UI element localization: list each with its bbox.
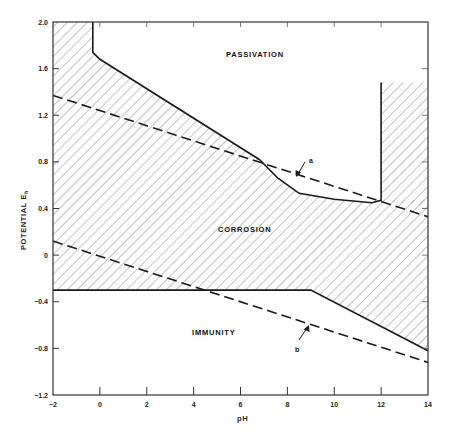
- y-tick-label: 2.0: [38, 19, 48, 26]
- arrowhead-b-icon: [304, 325, 310, 332]
- annotation-a: a: [296, 157, 314, 177]
- x-tick-label: 4: [192, 401, 196, 408]
- y-tick-label: −0.4: [34, 298, 48, 305]
- x-tick-label: 2: [145, 401, 149, 408]
- y-tick-label: −1.2: [34, 392, 48, 399]
- y-tick-label: 1.2: [38, 112, 48, 119]
- x-tick-label: 12: [377, 401, 385, 408]
- y-tick-label: 0.4: [38, 205, 48, 212]
- x-tick-label: −2: [49, 401, 57, 408]
- corrosion-region-right: [381, 83, 428, 207]
- y-axis-label: POTENTIAL Eh: [19, 190, 29, 250]
- label-a: a: [309, 157, 313, 164]
- passivation-label: PASSIVATION: [226, 50, 284, 59]
- y-axis-label-sub: h: [23, 190, 29, 194]
- y-tick-label: 0: [44, 252, 48, 259]
- corrosion-label: CORROSION: [218, 225, 271, 234]
- y-tick-label: −0.8: [34, 345, 48, 352]
- x-axis-label: pH: [237, 414, 248, 423]
- pourbaix-diagram: −2024681012142.01.61.20.80.40−0.4−0.8−1.…: [0, 0, 450, 436]
- y-tick-label: 0.8: [38, 158, 48, 165]
- y-tick-label: 1.6: [38, 65, 48, 72]
- label-b: b: [295, 346, 299, 353]
- x-tick-label: 6: [239, 401, 243, 408]
- annotation-b: b: [295, 325, 310, 353]
- x-tick-label: 0: [98, 401, 102, 408]
- immunity-label: IMMUNITY: [192, 328, 235, 337]
- x-tick-label: 14: [424, 401, 432, 408]
- svg-text:POTENTIAL Eh: POTENTIAL Eh: [19, 190, 29, 250]
- x-tick-label: 8: [285, 401, 289, 408]
- y-axis-label-main: POTENTIAL E: [19, 194, 28, 250]
- x-tick-label: 10: [330, 401, 338, 408]
